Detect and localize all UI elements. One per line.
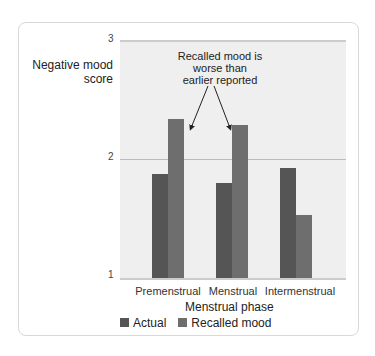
legend-recalled: Recalled mood (178, 316, 271, 330)
xtick-premenstrual: Premenstrual (133, 285, 203, 297)
x-axis-label: Menstrual phase (185, 300, 274, 314)
xtick-menstrual: Menstrual (198, 285, 268, 297)
xtick-intermenstrual: Intermenstrual (260, 285, 340, 297)
legend-actual: Actual (120, 316, 166, 330)
legend: Actual Recalled mood (120, 316, 271, 330)
